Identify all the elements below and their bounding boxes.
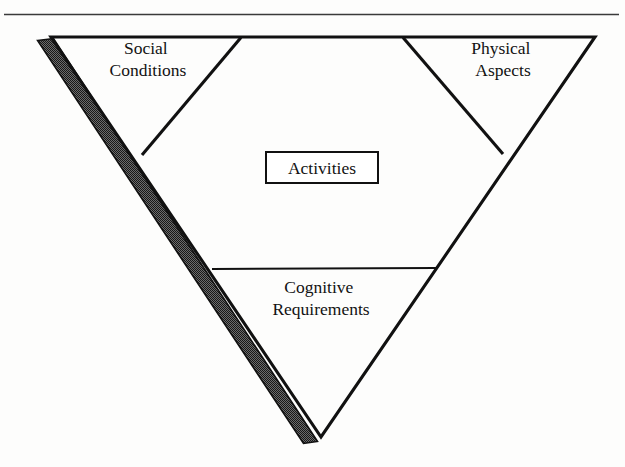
label-cognitive-requirements-line1: Cognitive (284, 277, 353, 297)
label-cognitive-requirements-line2: Requirements (272, 299, 369, 319)
label-cognitive-requirements: Cognitive Requirements (272, 277, 369, 319)
label-physical-aspects-line2: Aspects (475, 60, 531, 80)
figure-page: Social Conditions Physical Aspects Activ… (0, 0, 625, 467)
label-physical-aspects: Physical Aspects (471, 38, 535, 80)
inverted-triangle-diagram: Social Conditions Physical Aspects Activ… (0, 0, 625, 467)
left-edge-shade-band (38, 39, 318, 444)
label-activities: Activities (288, 158, 356, 178)
label-physical-aspects-line1: Physical (471, 38, 530, 58)
label-social-conditions-line2: Conditions (110, 60, 187, 80)
outer-triangle-outline (51, 37, 595, 437)
label-social-conditions-line1: Social (124, 38, 168, 58)
divider-cognitive-requirements (212, 268, 436, 269)
label-social-conditions: Social Conditions (110, 38, 187, 80)
